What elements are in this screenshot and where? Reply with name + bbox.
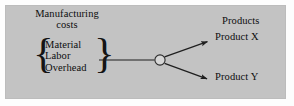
products-heading: Products — [222, 15, 260, 26]
product-x-label: Product X — [215, 31, 259, 42]
connector-junction-to-product-x — [165, 42, 208, 57]
connector-junction-to-product-y — [165, 63, 207, 78]
junction-node-icon — [155, 55, 165, 65]
product-y-label: Product Y — [215, 71, 258, 82]
diagram-screenshot: Manufacturingcosts { Material Labor Over… — [0, 0, 294, 106]
